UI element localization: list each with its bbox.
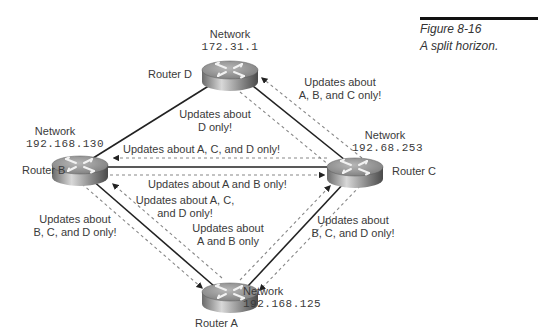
router-a-network-label: Network [243,285,283,297]
router-b-network-label: Network [20,125,90,137]
update-label-d-to-c-1: Updates about [175,108,255,120]
update-label-a-to-c-1: Updates about [178,222,278,234]
router-b-network: 192.168.130 [10,138,120,150]
update-label-c-to-b: Updates about A, C, and D only! [123,143,280,155]
update-label-a-to-c-2: A and B only [178,235,278,247]
router-d-network-label: Network [205,28,255,40]
update-label-b-to-a-1: Updates about [25,213,125,225]
update-label-c-to-a-2: B, C, and D only! [303,227,403,239]
update-label-c-to-d-2: A, B, and C only! [285,89,395,101]
router-a-label: Router A [195,317,238,329]
update-label-c-to-d-1: Updates about [285,76,395,88]
router-d-label: Router D [148,68,192,80]
update-label-b-to-a-2: B, C, and D only! [25,226,125,238]
router-c-network-label: Network [355,129,415,141]
update-label-b-to-c: Updates about A and B only! [148,178,287,190]
router-d-network: 172.31.1 [190,41,270,53]
router-c-label: Router C [392,165,436,177]
router-a-network: 192.168.125 [243,298,321,310]
router-d-icon [202,61,258,91]
update-label-a-to-b-1: Updates about A, C, [135,194,235,206]
update-label-d-to-c-2: D only! [175,121,255,133]
router-c-network: 192.68.253 [340,142,435,154]
update-label-c-to-a-1: Updates about [303,214,403,226]
router-c-icon [327,158,383,188]
update-label-a-to-b-2: and D only! [135,207,235,219]
router-b-label: Router B [22,164,65,176]
